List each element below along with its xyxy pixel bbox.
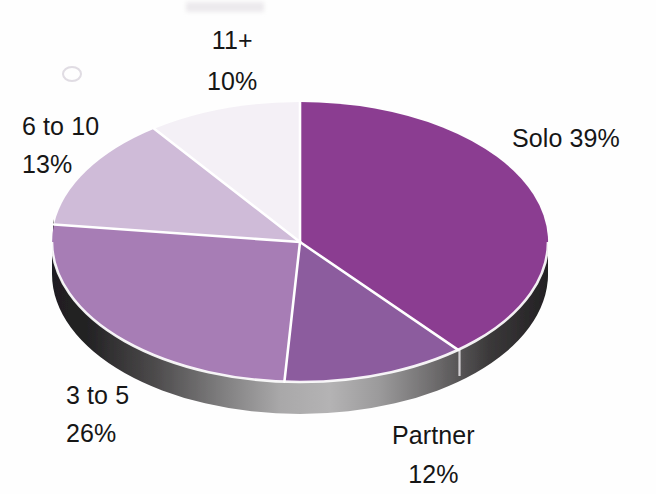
slice-label-solo: Solo 39% [512,122,620,155]
slice-label-solo-text: Solo 39% [512,122,620,155]
slice-label-11plus: 11+ 10% [207,24,257,98]
slice-label-partner: Partner 12% [392,419,475,491]
slice-label-6to10-name: 6 to 10 [22,110,99,143]
slice-label-partner-name: Partner [392,419,475,452]
slice-3to5 [52,225,300,382]
slice-label-6to10-value: 13% [22,148,99,181]
slice-label-3to5-name: 3 to 5 [66,379,129,412]
slice-label-3to5-value: 26% [66,417,129,450]
slice-label-11plus-value: 10% [207,65,257,98]
pie-chart: 11+ 10% 6 to 10 13% Solo 39% 3 to 5 26% … [0,0,656,494]
slice-label-3to5: 3 to 5 26% [66,379,129,450]
slice-label-partner-value: 12% [392,458,475,491]
slice-label-6to10: 6 to 10 13% [22,110,99,181]
slice-label-11plus-name: 11+ [207,24,257,57]
